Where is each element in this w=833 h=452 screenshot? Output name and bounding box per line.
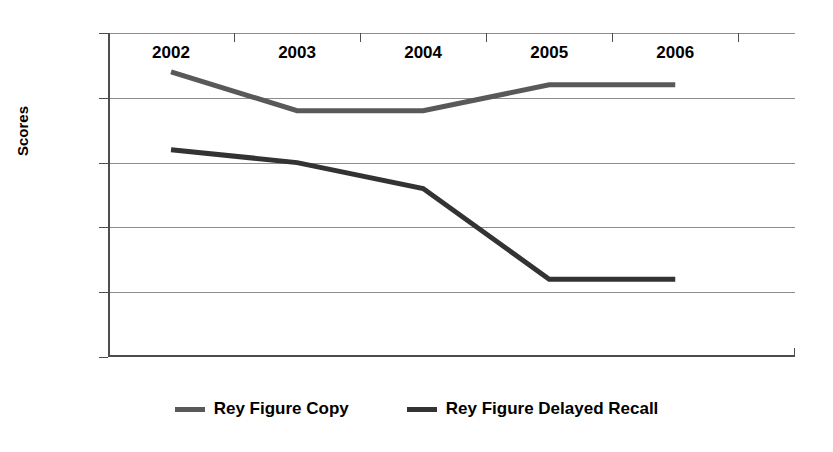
series-line — [171, 150, 675, 280]
series-lines — [108, 33, 795, 357]
x-tick-mark — [612, 33, 613, 42]
line-chart: Scores 0510152025 20022003200420052006 R… — [0, 0, 833, 452]
legend: Rey Figure CopyRey Figure Delayed Recall — [0, 399, 833, 419]
x-tick-label: 2002 — [152, 43, 190, 63]
x-tick-label: 2006 — [656, 43, 694, 63]
y-tick-mark — [99, 98, 108, 99]
y-tick-mark — [99, 163, 108, 164]
y-tick-mark — [99, 357, 108, 358]
y-tick-mark — [99, 292, 108, 293]
legend-item[interactable]: Rey Figure Delayed Recall — [407, 399, 659, 419]
x-tick-label: 2005 — [530, 43, 568, 63]
legend-label: Rey Figure Copy — [214, 399, 349, 419]
x-tick-label: 2003 — [278, 43, 316, 63]
legend-swatch-icon — [175, 407, 205, 412]
x-tick-mark — [234, 33, 235, 42]
legend-item[interactable]: Rey Figure Copy — [175, 399, 349, 419]
legend-swatch-icon — [407, 407, 437, 412]
x-tick-mark — [360, 33, 361, 42]
x-tick-label: 2004 — [404, 43, 442, 63]
x-tick-mark — [486, 33, 487, 42]
legend-label: Rey Figure Delayed Recall — [446, 399, 659, 419]
y-tick-mark — [99, 33, 108, 34]
y-axis-title: Scores — [14, 66, 40, 196]
series-line — [171, 72, 675, 111]
x-tick-mark — [738, 33, 739, 42]
y-tick-mark — [99, 227, 108, 228]
plot-area: 0510152025 20022003200420052006 — [108, 33, 795, 357]
